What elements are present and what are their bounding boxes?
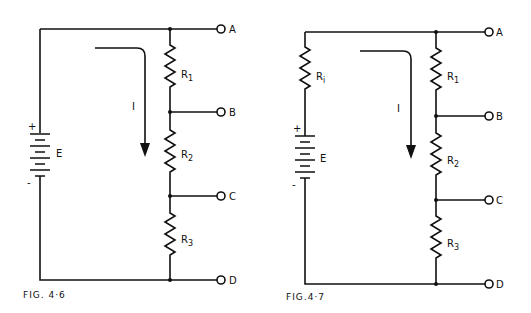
terminal-a [485,28,493,36]
terminal-c [485,196,493,204]
source-label: E [320,153,326,164]
ri-label: Ri [316,71,325,85]
terminal-d-label: D [496,279,504,290]
terminal-b [217,108,225,116]
current-label: I [397,103,400,114]
r2-label: R2 [181,149,193,163]
figure-caption: FIG. 4·6 [23,290,66,300]
terminal-c-label: C [496,195,503,206]
resistor-r2-icon [431,116,441,200]
bottom-wire [305,178,485,284]
resistor-r3-icon [165,196,175,280]
terminal-a-label: A [496,27,503,38]
figure-caption: FIG.4·7 [286,292,325,302]
r2-label: R2 [447,155,459,169]
r1-label: R1 [447,71,459,85]
battery-minus: - [27,177,31,188]
terminal-c-label: C [229,191,236,202]
arrowhead-icon [140,143,150,157]
battery-plus: + [28,121,36,132]
node [168,278,172,282]
bottom-wire [40,176,217,280]
terminal-d [485,280,493,288]
terminal-b-label: B [496,111,503,122]
battery-icon [30,134,50,176]
current-arrow-icon [360,51,411,152]
terminal-a-label: A [229,24,236,35]
r1-label: R1 [181,69,193,83]
terminal-d-label: D [229,275,237,286]
resistor-r1-icon [431,32,441,116]
current-arrow-icon [95,48,145,150]
terminal-b [485,112,493,120]
source-label: E [56,148,62,159]
battery-icon [295,136,315,178]
r3-label: R3 [181,234,193,248]
figure-4-6: A + - E D R1 B R2 C R3 I FIG. 4·6 [23,24,237,300]
terminal-b-label: B [229,107,236,118]
battery-minus: - [292,179,296,190]
arrowhead-icon [406,145,416,159]
terminal-d [217,276,225,284]
current-label: I [132,101,135,112]
terminal-c [217,192,225,200]
figure-4-7: A Ri + - E D R1 B R2 C R3 I FIG.4 [286,27,504,302]
resistor-r2-icon [165,112,175,196]
resistor-r3-icon [431,200,441,284]
battery-plus: + [293,123,301,134]
node [434,282,438,286]
r3-label: R3 [447,238,459,252]
resistor-r1-icon [165,29,175,112]
circuit-diagrams: A + - E D R1 B R2 C R3 I FIG. 4·6 [0,0,531,313]
terminal-a [217,25,225,33]
internal-resistor-icon [300,32,310,136]
